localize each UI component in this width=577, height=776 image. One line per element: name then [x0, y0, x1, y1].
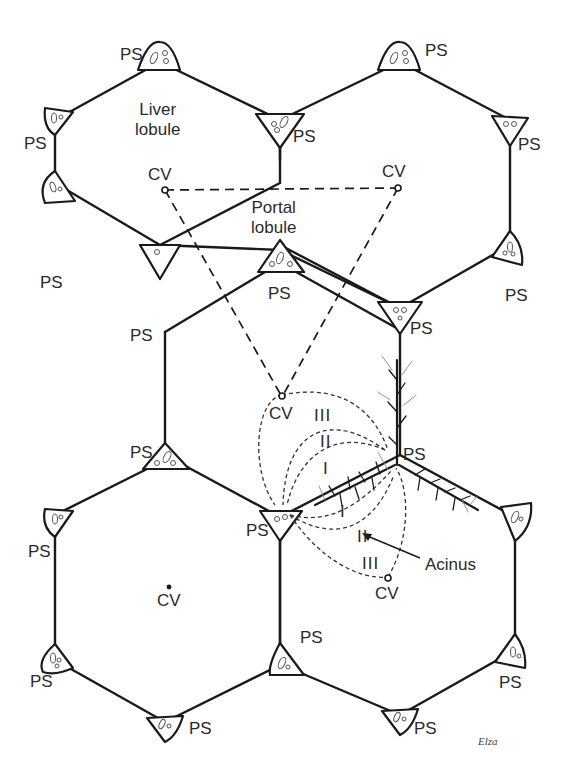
- portal-lobule-label-line1: Portal: [251, 198, 296, 218]
- ps-label: PS: [403, 446, 426, 464]
- portal-lobule-label-line2: lobule: [251, 218, 296, 238]
- central-vein-marker: [385, 575, 391, 581]
- ps-label: PS: [518, 136, 541, 154]
- ps-label: PS: [130, 327, 153, 345]
- ps-label: PS: [120, 46, 143, 64]
- ps-label: PS: [425, 42, 448, 60]
- cv-label-top-left: CV: [148, 166, 172, 184]
- zone-1-label-lower: I: [340, 503, 346, 521]
- zone-2-label-upper: II: [320, 433, 331, 451]
- ps-label: PS: [28, 543, 51, 561]
- ps-label: PS: [268, 285, 291, 303]
- ps-label: PS: [189, 720, 212, 738]
- ps-label: PS: [499, 674, 522, 692]
- artist-signature: Elza: [478, 735, 498, 747]
- ps-label: PS: [40, 274, 63, 292]
- zone-3-label-upper: III: [314, 407, 331, 425]
- central-vein-marker: [167, 585, 172, 590]
- portal-spaces: [42, 42, 532, 742]
- hex-top-right: [280, 62, 510, 308]
- liver-lobule-diagram: [0, 0, 577, 776]
- zone-2-label-lower: II: [357, 528, 368, 546]
- cv-label-bottom-right: CV: [375, 585, 399, 603]
- liver-lobule-label-line1: Liver: [135, 100, 180, 120]
- central-vein-marker: [162, 187, 168, 193]
- cv-label-middle: CV: [269, 405, 293, 423]
- ps-label: PS: [300, 629, 323, 647]
- liver-lobule-label: Liver lobule: [135, 100, 180, 140]
- central-vein-marker: [279, 393, 285, 399]
- zone-3-label-lower: III: [362, 555, 379, 573]
- cv-label-top-right: CV: [382, 163, 406, 181]
- ps-label: PS: [293, 128, 316, 146]
- liver-lobule-label-line2: lobule: [135, 120, 180, 140]
- ps-label: PS: [410, 320, 433, 338]
- zone-1-label-upper: I: [323, 460, 329, 478]
- central-vein-marker: [395, 185, 401, 191]
- vascular-branches: [315, 356, 478, 512]
- ps-label: PS: [505, 287, 528, 305]
- ps-label: PS: [24, 135, 47, 153]
- portal-lobule-label: Portal lobule: [251, 198, 296, 238]
- ps-label: PS: [414, 720, 437, 738]
- acinus-label: Acinus: [425, 556, 476, 574]
- hex-top-left: [55, 62, 280, 245]
- cv-label-bottom-left: CV: [157, 592, 181, 610]
- ps-label: PS: [246, 522, 269, 540]
- ps-label: PS: [30, 673, 53, 691]
- ps-label: PS: [130, 444, 153, 462]
